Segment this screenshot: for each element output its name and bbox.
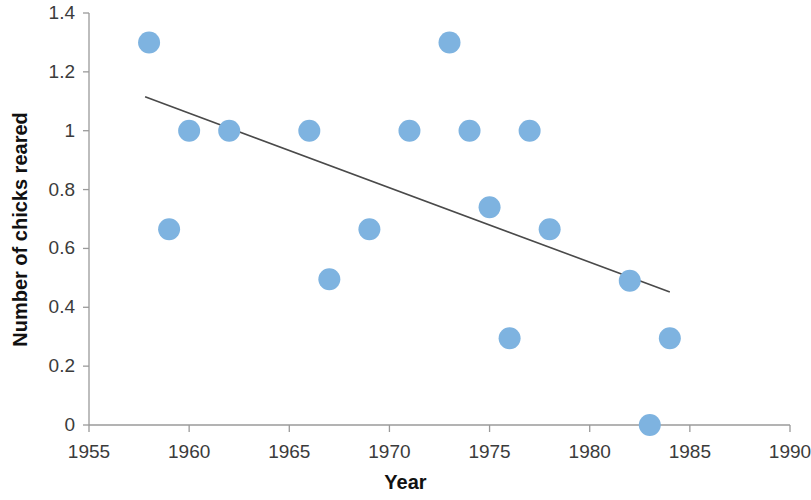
scatter-point (218, 120, 240, 142)
x-tick-label: 1955 (68, 441, 110, 463)
scatter-point (158, 218, 180, 240)
x-tick-label: 1985 (669, 441, 711, 463)
x-axis-title: Year (0, 471, 811, 494)
x-tick-label: 1960 (168, 441, 210, 463)
scatter-point (178, 120, 200, 142)
y-tick-label: 0 (3, 414, 75, 436)
y-axis-title: Number of chicks reared (9, 80, 32, 380)
chart-container: 00.20.40.60.811.21.419551960196519701975… (0, 0, 811, 500)
x-tick-label: 1975 (468, 441, 510, 463)
y-tick-label: 1.4 (3, 2, 75, 24)
scatter-point (619, 270, 641, 292)
scatter-point (439, 31, 461, 53)
x-tick-label: 1965 (268, 441, 310, 463)
scatter-point (398, 120, 420, 142)
scatter-point (318, 268, 340, 290)
scatter-point (519, 120, 541, 142)
axes (83, 13, 790, 432)
scatter-point (479, 196, 501, 218)
scatter-point (298, 120, 320, 142)
scatter-point (358, 218, 380, 240)
scatter-point (499, 327, 521, 349)
scatter-point (459, 120, 481, 142)
scatter-plot-svg (0, 0, 811, 500)
scatter-point (138, 31, 160, 53)
scatter-point (539, 218, 561, 240)
x-tick-label: 1980 (569, 441, 611, 463)
x-tick-label: 1970 (368, 441, 410, 463)
x-tick-label: 1990 (769, 441, 811, 463)
scatter-point (639, 414, 661, 436)
data-points (138, 31, 681, 436)
scatter-point (659, 327, 681, 349)
